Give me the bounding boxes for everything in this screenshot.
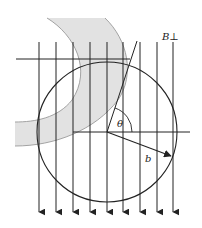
trajectory-band <box>15 18 127 146</box>
field-label: B⊥ <box>161 31 179 42</box>
angle-label: θ <box>117 118 123 129</box>
diagram-canvas: B⊥ θ b <box>0 0 202 228</box>
radius-label: b <box>145 153 151 164</box>
radius-arrow <box>107 132 171 156</box>
